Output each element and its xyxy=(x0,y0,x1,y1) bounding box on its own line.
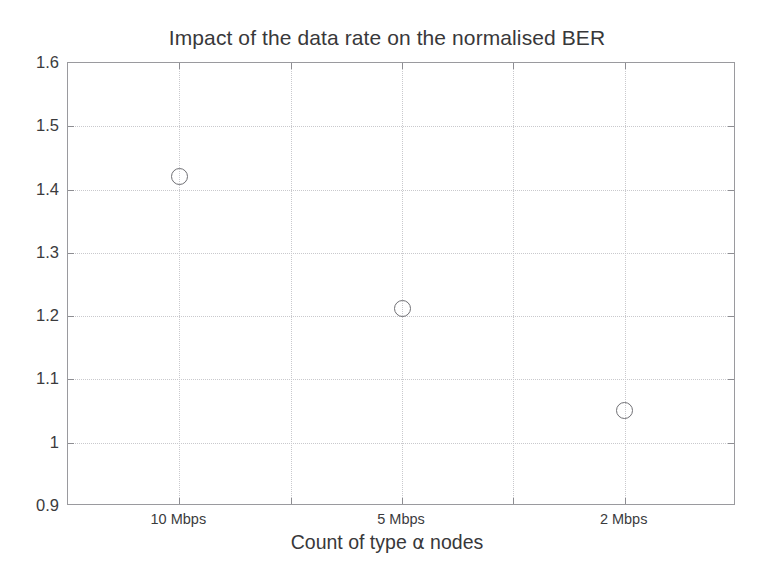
gridline-horizontal-1.3 xyxy=(68,253,734,254)
y-tick-mark-1.4 xyxy=(68,190,74,191)
y-tick-mark-1.0 xyxy=(68,443,74,444)
y-tick-label-3: 1.2 xyxy=(36,306,59,325)
data-point-10-mbps[interactable] xyxy=(171,168,188,185)
x-tick-mark-top-4 xyxy=(513,63,514,69)
x-tick-label-5-mbps: 5 Mbps xyxy=(377,511,425,527)
gridline-vertical-3 xyxy=(402,63,403,504)
x-axis-title-suffix: nodes xyxy=(425,531,484,553)
x-tick-mark-5 xyxy=(625,498,626,504)
data-point-5-mbps[interactable] xyxy=(394,300,411,317)
y-tick-mark-right-1.3 xyxy=(728,253,734,254)
x-tick-label-10-mbps: 10 Mbps xyxy=(151,511,207,527)
y-tick-label-0: 0.9 xyxy=(36,496,59,515)
y-tick-mark-1.3 xyxy=(68,253,74,254)
y-tick-mark-right-1.2 xyxy=(728,316,734,317)
y-tick-label-6: 1.5 xyxy=(36,116,59,135)
x-tick-mark-4 xyxy=(513,498,514,504)
y-tick-label-1: 1 xyxy=(50,432,59,451)
y-tick-label-4: 1.3 xyxy=(36,242,59,261)
x-tick-mark-2 xyxy=(291,498,292,504)
y-tick-mark-right-1.0 xyxy=(728,443,734,444)
gridline-vertical-4 xyxy=(513,63,514,504)
y-tick-mark-right-1.4 xyxy=(728,190,734,191)
tick-layer xyxy=(68,63,734,504)
gridline-vertical-1 xyxy=(179,63,180,504)
data-point-2-mbps[interactable] xyxy=(616,402,633,419)
y-axis-tick-labels: 0.9 1 1.1 1.2 1.3 1.4 1.5 1.6 xyxy=(0,62,59,505)
x-tick-mark-3 xyxy=(402,498,403,504)
x-axis-tick-labels: 10 Mbps 5 Mbps 2 Mbps xyxy=(67,511,735,533)
x-tick-mark-1 xyxy=(179,498,180,504)
x-axis-title: Count of type α nodes xyxy=(0,531,774,554)
x-tick-mark-top-5 xyxy=(625,63,626,69)
y-tick-mark-1.1 xyxy=(68,379,74,380)
y-tick-mark-1.5 xyxy=(68,126,74,127)
y-tick-mark-right-1.1 xyxy=(728,379,734,380)
gridline-horizontal-1.4 xyxy=(68,190,734,191)
gridline-horizontal-1.0 xyxy=(68,443,734,444)
data-series-normalised-ber xyxy=(68,63,734,504)
y-tick-label-7: 1.6 xyxy=(36,53,59,72)
x-axis-title-alpha-symbol: α xyxy=(412,531,425,553)
y-tick-label-2: 1.1 xyxy=(36,369,59,388)
x-tick-label-2-mbps: 2 Mbps xyxy=(600,511,648,527)
x-tick-mark-top-1 xyxy=(179,63,180,69)
x-tick-mark-top-3 xyxy=(402,63,403,69)
y-tick-mark-right-1.5 xyxy=(728,126,734,127)
y-tick-mark-1.2 xyxy=(68,316,74,317)
chart-title: Impact of the data rate on the normalise… xyxy=(0,26,774,50)
plot-area xyxy=(67,62,735,505)
gridline-horizontal-1.1 xyxy=(68,379,734,380)
x-axis-title-prefix: Count of type xyxy=(291,531,412,553)
gridline-horizontal-1.2 xyxy=(68,316,734,317)
gridline-vertical-2 xyxy=(291,63,292,504)
x-tick-mark-top-2 xyxy=(291,63,292,69)
gridline-horizontal-1.5 xyxy=(68,126,734,127)
figure-canvas: Impact of the data rate on the normalise… xyxy=(0,0,774,572)
gridline-vertical-5 xyxy=(625,63,626,504)
grid-layer xyxy=(68,63,734,504)
y-tick-label-5: 1.4 xyxy=(36,179,59,198)
